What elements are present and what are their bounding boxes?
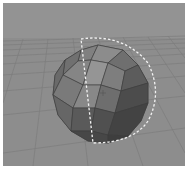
viewport-canvas[interactable] bbox=[3, 3, 185, 166]
3d-viewport[interactable] bbox=[3, 3, 185, 166]
